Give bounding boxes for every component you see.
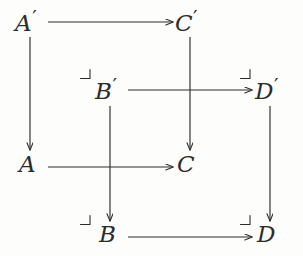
corner-mark-icon-near-Bprime [81, 70, 91, 79]
horizontal-arrows [48, 22, 252, 237]
node-base-B-prime: B [95, 78, 112, 104]
node-label-B: B [99, 223, 116, 246]
node-label-C-prime: C′ [175, 8, 198, 35]
node-label-D-prime: D′ [255, 76, 279, 103]
prime-mark-D: ′ [273, 74, 278, 98]
corner-mark-icon-near-Dprime [241, 70, 251, 79]
node-base-C-prime: C [175, 10, 193, 36]
node-label-C: C [177, 153, 195, 176]
prime-mark-A: ′ [32, 6, 37, 30]
node-label-A: A [19, 153, 36, 176]
corner-mark-icon-near-D [241, 216, 251, 225]
vertical-arrows [30, 37, 270, 221]
corner-mark-icon-near-B [81, 216, 91, 225]
node-base-A-prime: A [15, 10, 32, 36]
diagram-canvas [0, 0, 303, 256]
node-label-D: D [257, 223, 275, 246]
node-label-B-prime: B′ [95, 76, 117, 103]
node-label-A-prime: A′ [15, 8, 37, 35]
node-base-D-prime: D [255, 78, 273, 104]
prime-mark-B: ′ [112, 74, 117, 98]
prime-mark-C: ′ [193, 6, 198, 30]
